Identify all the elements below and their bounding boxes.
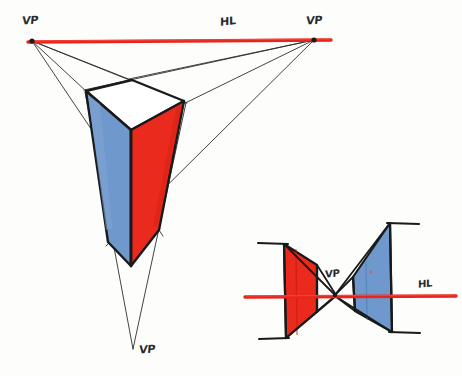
drawing-canvas: VP HL VP VP VP HL xyxy=(0,0,462,376)
vp-dot-small xyxy=(333,293,337,297)
vp-dot-right xyxy=(311,37,316,42)
label-vp-top-right: VP xyxy=(306,14,322,27)
tick-blue-top-mark xyxy=(387,223,419,224)
label-vp-top-right-text: VP xyxy=(305,14,322,28)
line-vpl-to-top-left xyxy=(32,41,87,92)
vp-dot-left xyxy=(29,38,34,43)
label-vp-bottom-text: VP xyxy=(138,343,155,357)
tick-red-bottom-mark xyxy=(259,338,289,339)
label-horizon-main: HL xyxy=(220,15,236,28)
label-vp-bottom: VP xyxy=(139,343,155,356)
label-vp-top-left-text: VP xyxy=(21,14,38,28)
small-blue-plane-speck xyxy=(370,271,373,274)
label-horizon-small-text: HL xyxy=(418,277,432,289)
label-horizon-small: HL xyxy=(418,278,432,289)
perspective-drawing xyxy=(0,0,462,376)
tick-blue-bottom-mark xyxy=(389,332,420,333)
label-vp-top-left: VP xyxy=(22,14,38,27)
small-red-plane xyxy=(284,244,317,338)
label-vp-small: VP xyxy=(325,268,339,279)
label-vp-small-text: VP xyxy=(325,267,340,279)
label-horizon-main-text: HL xyxy=(220,14,236,29)
small-red-plane-crease xyxy=(296,249,297,335)
small-blue-plane xyxy=(353,223,392,332)
tick-marks-group xyxy=(258,223,420,339)
